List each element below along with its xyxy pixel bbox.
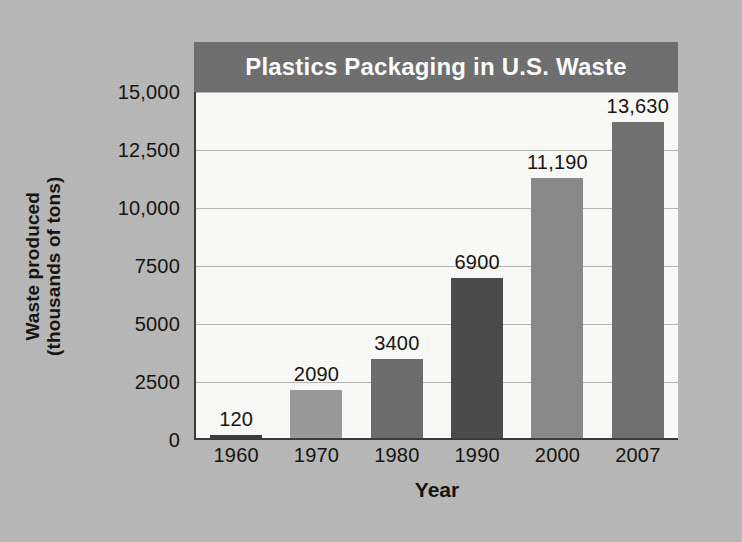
y-axis-tick-label: 5000 (135, 313, 180, 336)
bar-value-label: 11,190 (527, 151, 588, 174)
y-axis-tick-label: 2500 (135, 371, 180, 394)
y-axis-tick-label: 15,000 (118, 81, 180, 104)
bar-value-label: 13,630 (607, 95, 669, 118)
bar-slot: 3400 (357, 92, 437, 438)
bar-value-label: 120 (219, 408, 253, 431)
bar-slot: 120 (196, 92, 276, 438)
chart-title-band: Plastics Packaging in U.S. Waste (194, 42, 678, 92)
x-axis-tick-label: 1980 (357, 444, 437, 467)
bar-value-label: 3400 (374, 332, 419, 355)
bar[interactable]: 6900 (451, 278, 503, 438)
bar-value-label: 6900 (454, 251, 499, 274)
bar-slot: 11,190 (517, 92, 597, 438)
bar[interactable]: 120 (210, 435, 262, 438)
y-axis-tick-label: 0 (169, 429, 180, 452)
chart-title: Plastics Packaging in U.S. Waste (245, 53, 627, 81)
y-axis-tick-label: 10,000 (118, 197, 180, 220)
y-axis-title-line-2: (thousands of tons) (44, 176, 65, 355)
x-axis-tick-label: 2007 (598, 444, 678, 467)
bar-slot: 13,630 (598, 92, 678, 438)
bar-value-label: 2090 (294, 363, 339, 386)
x-axis-tick-label: 1990 (437, 444, 517, 467)
bar-series: 12020903400690011,19013,630 (196, 92, 678, 438)
bar-slot: 6900 (437, 92, 517, 438)
bar[interactable]: 2090 (290, 390, 342, 438)
x-axis-tick-labels: 196019701980199020002007 (196, 444, 678, 467)
x-axis-tick-label: 2000 (517, 444, 597, 467)
plot-area: 12020903400690011,19013,630 (194, 92, 678, 440)
bar[interactable]: 11,190 (531, 178, 583, 438)
x-axis-tick-label: 1970 (276, 444, 356, 467)
y-axis-title-line-1: Waste produced (23, 192, 44, 341)
chart-figure: Waste produced (thousands of tons) 02500… (0, 0, 742, 542)
bar[interactable]: 13,630 (612, 122, 664, 438)
x-axis-title: Year (196, 478, 678, 502)
y-axis-title-text: Waste produced (thousands of tons) (23, 176, 66, 355)
y-axis-title: Waste produced (thousands of tons) (16, 92, 72, 440)
bar-slot: 2090 (276, 92, 356, 438)
bar[interactable]: 3400 (371, 359, 423, 438)
y-axis-tick-label: 7500 (135, 255, 180, 278)
y-axis-tick-label: 12,500 (118, 139, 180, 162)
y-axis-tick-labels: 025005000750010,00012,50015,000 (78, 92, 186, 440)
x-axis-tick-label: 1960 (196, 444, 276, 467)
